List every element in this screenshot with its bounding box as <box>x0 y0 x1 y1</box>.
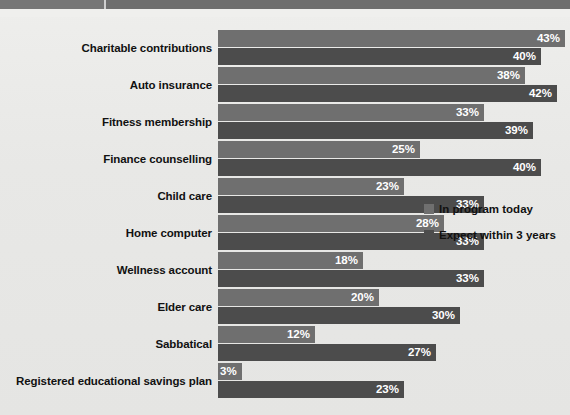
chart-row: Registered educational savings plan3%23% <box>0 362 570 399</box>
bar-expect-within-3-years: 33% <box>218 270 484 287</box>
bar-in-program-today: 18% <box>218 252 363 269</box>
top-banner-right-segment <box>106 0 570 9</box>
bar-value-label: 33% <box>456 270 479 287</box>
bar-value-label: 43% <box>537 30 560 47</box>
bar-value-label: 30% <box>432 307 455 324</box>
bar-expect-within-3-years: 23% <box>218 381 404 398</box>
bar-value-label: 42% <box>529 85 552 102</box>
top-banner-strip <box>0 0 570 9</box>
bar-in-program-today: 38% <box>218 67 525 84</box>
bar-in-program-today: 43% <box>218 30 565 47</box>
chart-row: Finance counselling25%40% <box>0 140 570 177</box>
bar-in-program-today: 23% <box>218 178 404 195</box>
chart-row: Sabbatical12%27% <box>0 325 570 362</box>
top-banner-left-segment <box>0 0 104 9</box>
category-label: Sabbatical <box>0 334 212 354</box>
bar-expect-within-3-years: 27% <box>218 344 436 361</box>
top-light-strip <box>0 9 570 17</box>
bar-value-label: 3% <box>220 363 237 380</box>
legend-label: In program today <box>439 200 533 218</box>
bar-value-label: 33% <box>456 104 479 121</box>
legend-label: Expect within 3 years <box>439 226 556 244</box>
category-label: Registered educational savings plan <box>0 371 212 391</box>
legend-item[interactable]: Expect within 3 years <box>424 226 570 248</box>
category-label: Home computer <box>0 223 212 243</box>
category-label: Fitness membership <box>0 112 212 132</box>
bar-value-label: 20% <box>351 289 374 306</box>
bar-value-label: 39% <box>505 122 528 139</box>
bar-in-program-today: 33% <box>218 104 484 121</box>
bar-in-program-today: 3% <box>218 363 242 380</box>
bar-in-program-today: 25% <box>218 141 420 158</box>
category-label: Charitable contributions <box>0 38 212 58</box>
chart-row: Wellness account18%33% <box>0 251 570 288</box>
bar-value-label: 38% <box>497 67 520 84</box>
category-label: Child care <box>0 186 212 206</box>
chart-row: Elder care20%30% <box>0 288 570 325</box>
category-label: Auto insurance <box>0 75 212 95</box>
bar-expect-within-3-years: 30% <box>218 307 460 324</box>
legend-item[interactable]: In program today <box>424 200 570 222</box>
bar-value-label: 25% <box>392 141 415 158</box>
bar-expect-within-3-years: 40% <box>218 159 541 176</box>
bar-in-program-today: 20% <box>218 289 379 306</box>
chart-row: Charitable contributions43%40% <box>0 29 570 66</box>
bar-expect-within-3-years: 42% <box>218 85 557 102</box>
bar-value-label: 23% <box>376 178 399 195</box>
category-label: Elder care <box>0 297 212 317</box>
chart-page: Charitable contributions43%40%Auto insur… <box>0 0 570 415</box>
category-label: Wellness account <box>0 260 212 280</box>
bar-in-program-today: 28% <box>218 215 444 232</box>
legend-swatch-icon <box>424 204 434 214</box>
bar-in-program-today: 12% <box>218 326 315 343</box>
chart-row: Fitness membership33%39% <box>0 103 570 140</box>
bar-value-label: 18% <box>335 252 358 269</box>
category-label: Finance counselling <box>0 149 212 169</box>
bar-value-label: 40% <box>513 159 536 176</box>
bar-expect-within-3-years: 40% <box>218 48 541 65</box>
bar-value-label: 23% <box>376 381 399 398</box>
legend-swatch-icon <box>424 230 434 240</box>
bar-value-label: 27% <box>408 344 431 361</box>
bar-expect-within-3-years: 39% <box>218 122 533 139</box>
bar-value-label: 40% <box>513 48 536 65</box>
chart-row: Auto insurance38%42% <box>0 66 570 103</box>
chart-legend: In program todayExpect within 3 years <box>424 200 570 252</box>
bar-value-label: 12% <box>287 326 310 343</box>
